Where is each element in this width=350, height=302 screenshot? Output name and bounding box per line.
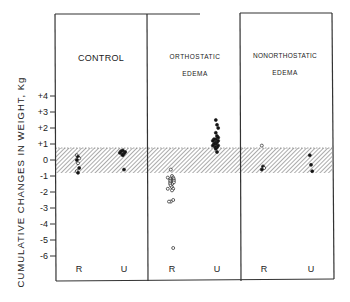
data-points: [75, 119, 313, 250]
data-point: [260, 144, 263, 147]
data-point: [214, 119, 217, 122]
y-tick-labels: +4 +3 +2 +1 0 -1 -2 -3 -4 -5 -6: [38, 91, 48, 261]
panel-title-orthostatic: ORTHOSTATIC: [170, 53, 221, 60]
y-tick-label: -2: [40, 187, 48, 197]
y-axis-title: CUMULATIVE CHANGES IN WEIGHT, Kg: [15, 77, 26, 288]
data-point: [214, 131, 217, 134]
panel-subtitle-orthostatic: EDEMA: [182, 70, 208, 77]
data-point: [172, 247, 175, 250]
normal-range-band: [55, 148, 332, 173]
data-point: [260, 168, 263, 171]
data-point: [310, 163, 313, 166]
data-point: [166, 187, 169, 190]
y-tick-label: +1: [38, 139, 48, 149]
x-label-ortho-u: U: [214, 264, 221, 274]
x-label-ortho-r: R: [169, 264, 176, 274]
panel-title-nonorthostatic: NONORTHOSTATIC: [253, 52, 317, 59]
y-tick-label: -1: [40, 171, 48, 181]
y-tick-label: +3: [38, 107, 48, 117]
data-point: [308, 154, 311, 157]
data-point: [214, 147, 217, 150]
y-tick-label: -5: [40, 235, 48, 245]
x-label-nonortho-u: U: [308, 264, 315, 274]
data-point: [121, 154, 124, 157]
data-point: [123, 168, 126, 171]
y-tick-label: -6: [40, 251, 48, 261]
x-label-nonortho-r: R: [261, 264, 268, 274]
x-label-control-u: U: [121, 264, 128, 274]
chart-canvas: +4 +3 +2 +1 0 -1 -2 -3 -4 -5 -6 CUMULATI…: [0, 0, 350, 302]
data-point: [168, 200, 171, 203]
y-tick-label: +2: [38, 123, 48, 133]
panel-title-control: CONTROL: [78, 53, 124, 63]
y-tick-label: -3: [40, 203, 48, 213]
data-point: [311, 170, 314, 173]
data-point: [78, 167, 81, 170]
data-point: [169, 168, 172, 171]
data-point: [77, 162, 80, 165]
data-point: [216, 123, 219, 126]
x-label-control-r: R: [76, 264, 83, 274]
y-tick-label: +4: [38, 91, 48, 101]
data-point: [216, 151, 219, 154]
data-point: [75, 159, 78, 162]
panel-subtitle-nonorthostatic: EDEMA: [272, 69, 298, 76]
data-point: [77, 171, 80, 174]
y-tick-label: -4: [40, 219, 48, 229]
data-point: [217, 127, 220, 130]
y-tick-label: 0: [43, 155, 48, 165]
data-point: [171, 189, 174, 192]
